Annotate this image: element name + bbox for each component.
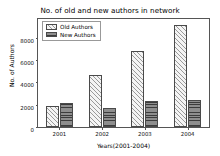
chart-title: No. of old and new authors in network	[0, 6, 220, 15]
x-axis-tick-label: 2003	[138, 127, 152, 137]
bar-old-authors-2004	[174, 25, 187, 127]
x-axis-tick-label: 2004	[181, 127, 195, 137]
bar-new-authors-2004	[188, 100, 201, 127]
y-axis-tick-mark	[36, 38, 39, 39]
x-axis-tick-label: 2001	[53, 127, 67, 137]
bar-chart-figure: No. of old and new authors in network No…	[0, 0, 220, 156]
y-axis-tick-mark	[36, 60, 39, 61]
y-axis-tick-mark	[36, 82, 39, 83]
x-axis-tick-label: 2002	[95, 127, 109, 137]
legend-label-old-authors: Old Authors	[60, 24, 93, 30]
legend-label-new-authors: New Authors	[60, 32, 96, 38]
legend-swatch-old-authors	[46, 24, 57, 30]
legend-swatch-new-authors	[46, 32, 57, 38]
chart-legend: Old Authors New Authors	[42, 21, 101, 41]
legend-item-old-authors: Old Authors	[46, 24, 96, 30]
bar-old-authors-2003	[131, 51, 144, 127]
bar-new-authors-2003	[145, 101, 158, 127]
y-axis-tick-mark	[36, 105, 39, 106]
x-axis-label: Years(2001-2004)	[37, 142, 210, 149]
bar-old-authors-2001	[46, 106, 59, 127]
y-axis-tick-mark	[36, 127, 39, 128]
bar-new-authors-2001	[60, 103, 73, 127]
bar-new-authors-2002	[103, 108, 116, 127]
legend-item-new-authors: New Authors	[46, 32, 96, 38]
bar-old-authors-2002	[89, 75, 102, 127]
y-axis-label: No. of Authors	[8, 36, 15, 96]
